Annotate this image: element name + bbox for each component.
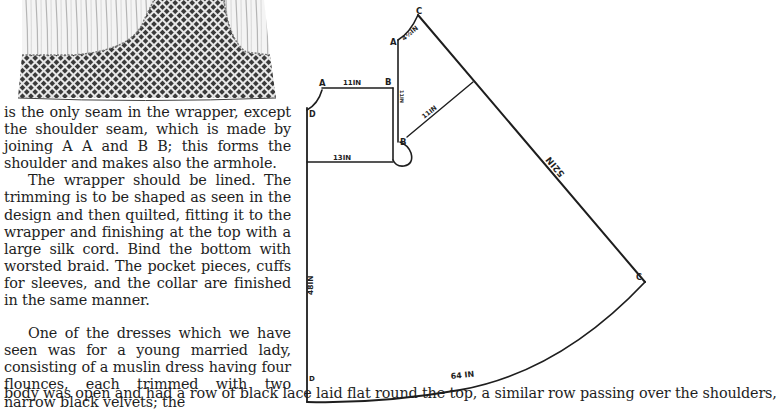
measure-armhole-vertical: 11IN (399, 90, 405, 103)
full-width-text-line: body was open and had a row of black lac… (4, 385, 669, 402)
measure-long-side: 52IN (544, 155, 567, 179)
label-left-b: B (385, 77, 391, 87)
shoulder-curve (398, 15, 418, 40)
long-diagonal (418, 15, 645, 282)
inner-diagonal (407, 82, 473, 137)
measure-waist: 13IN (333, 154, 351, 162)
label-bottom-d: D (309, 375, 315, 383)
paragraph-seam: is the only seam in the wrapper, except … (4, 104, 291, 172)
measure-shoulder-top: 11IN (343, 79, 361, 87)
measure-inner-diagonal: 11IN (420, 104, 438, 121)
left-neck-curve (307, 90, 322, 110)
paragraph-lining: The wrapper should be lined. The trimmin… (4, 172, 291, 309)
label-right-c-side: C (636, 273, 642, 282)
wrapper-illustration (14, 0, 276, 102)
label-left-a: A (319, 78, 326, 88)
label-right-c-top: C (416, 6, 422, 16)
measure-left-length: 48IN (306, 275, 315, 295)
label-right-b: B (400, 137, 406, 147)
label-left-d: D (309, 110, 316, 119)
text-column: is the only seam in the wrapper, except … (4, 104, 291, 411)
label-right-a: A (390, 37, 397, 47)
measure-hem: 64 IN (450, 370, 474, 381)
armhole-loop (393, 142, 412, 166)
measure-shoulder-small: 4½IN (400, 24, 420, 42)
